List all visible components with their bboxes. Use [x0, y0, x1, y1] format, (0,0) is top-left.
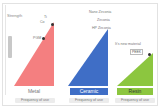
category-ceramic: Ceramic: [70, 88, 108, 95]
resin-annotation-new-material: It's new material: [115, 42, 141, 46]
resin-point-peek: [148, 53, 151, 56]
metal-point-co: [51, 23, 54, 26]
ceramic-frequency-label: Frequency of use: [69, 98, 109, 103]
ceramic-annotation-nano-zirconia: Nano Zirconia: [89, 10, 111, 14]
ceramic-annotation-hp-zirconia: HP Zirconia: [92, 26, 111, 30]
category-resin: Resin: [117, 88, 153, 95]
y-axis-line: [5, 5, 6, 95]
y-axis-label: Strength: [7, 13, 22, 18]
metal-annotation-ti: Ti: [44, 15, 47, 19]
metal-triangle: [14, 22, 54, 86]
resin-annotation-peek: PEEK: [130, 49, 143, 55]
ceramic-triangle: [68, 29, 108, 86]
category-metal: Metal: [14, 88, 54, 95]
strength-arrow-icon: [8, 36, 12, 58]
ceramic-annotation-zirconia: Zirconia: [97, 18, 110, 22]
resin-frequency-label: Frequency of use: [115, 98, 155, 103]
resin-triangle: [117, 53, 153, 86]
metal-point-pgm: [42, 37, 45, 40]
metal-annotation-co: Co: [40, 20, 45, 24]
metal-annotation-pgm: PGM: [33, 36, 41, 40]
metal-frequency-label: Frequency of use: [15, 98, 55, 103]
